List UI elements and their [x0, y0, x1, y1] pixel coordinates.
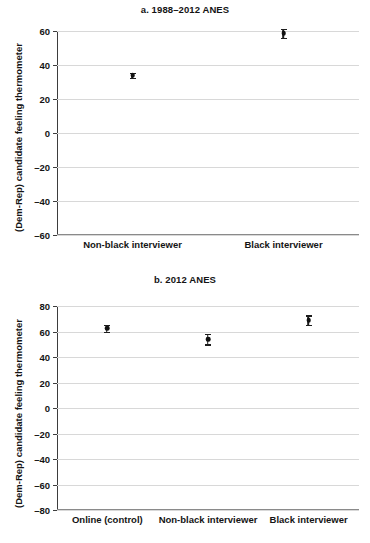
panel-a-y-tick-label: 60 [39, 26, 50, 37]
panel-a-y-tick-label: –20 [34, 162, 50, 173]
panel-b-gridline [57, 485, 359, 486]
panel-a-gridline [57, 167, 359, 168]
panel-b-error-cap-upper [306, 315, 312, 316]
panel-b-error-cap-upper [205, 334, 211, 335]
panel-b-gridline [57, 459, 359, 460]
panel-b-y-tick-label: 60 [39, 326, 50, 337]
panel-b-marker [105, 326, 110, 331]
panel-b-y-tick-mark [53, 510, 57, 511]
panel-b-y-tick-label: 80 [39, 301, 50, 312]
panel-b-y-tick-mark [53, 383, 57, 384]
panel-b-gridline [57, 306, 359, 307]
panel-b-gridline [57, 408, 359, 409]
panel-b-y-axis-title: (Dem-Rep) candidate feeling thermometer [13, 319, 24, 508]
panel-a-y-tick-mark [53, 201, 57, 202]
panel-b-x-category-label: Online (control) [72, 514, 143, 525]
panel-a-title: a. 1988–2012 ANES [0, 4, 370, 15]
panel-b-y-tick-label: 40 [39, 352, 50, 363]
panel-b-x-category-labels: Online (control)Non-black interviewerBla… [0, 514, 370, 528]
panel-b-y-tick-mark [53, 332, 57, 333]
panel-a-error-cap-lower [281, 38, 287, 39]
panel-b-y-tick-label: –40 [34, 454, 50, 465]
panel-a-marker [130, 73, 135, 78]
panel-a-x-category-label: Non-black interviewer [83, 239, 182, 250]
panel-a-plot-area: 6040200–20–40–60 [57, 31, 359, 235]
panel-a-gridline [57, 133, 359, 134]
panel-b-y-tick-mark [53, 434, 57, 435]
panel-b-y-tick-label: 20 [39, 377, 50, 388]
panel-a-gridline [57, 99, 359, 100]
panel-a-y-tick-label: 40 [39, 60, 50, 71]
panel-b-y-tick-mark [53, 485, 57, 486]
panel-b-y-tick-mark [53, 306, 57, 307]
panel-b-gridline [57, 383, 359, 384]
panel-b-gridline [57, 510, 359, 511]
panel-b-gridline [57, 434, 359, 435]
panel-a-gridline [57, 31, 359, 32]
panel-b-gridline [57, 332, 359, 333]
panel-a-gridline [57, 65, 359, 66]
panel-b-error-cap-lower [104, 332, 110, 333]
panel-b-gridline [57, 357, 359, 358]
panel-b-marker [306, 318, 311, 323]
panel-a-y-tick-label: 0 [45, 128, 50, 139]
panel-b-title: b. 2012 ANES [0, 274, 370, 285]
panel-a-y-tick-mark [53, 65, 57, 66]
panel-a-y-tick-label: 20 [39, 94, 50, 105]
panel-b-y-tick-mark [53, 459, 57, 460]
panel-b-error-cap-lower [205, 344, 211, 345]
panel-b-y-tick-mark [53, 408, 57, 409]
panel-b-y-tick-mark [53, 357, 57, 358]
chart-panel-a: a. 1988–2012 ANES (Dem-Rep) candidate fe… [0, 0, 370, 272]
panel-b-x-category-label: Black interviewer [270, 514, 348, 525]
figure-container: a. 1988–2012 ANES (Dem-Rep) candidate fe… [0, 0, 370, 543]
panel-b-marker [206, 337, 211, 342]
panel-a-marker [281, 31, 286, 36]
panel-a-gridline [57, 201, 359, 202]
panel-a-y-tick-mark [53, 235, 57, 236]
panel-a-y-tick-mark [53, 167, 57, 168]
panel-a-y-tick-mark [53, 99, 57, 100]
chart-panel-b: b. 2012 ANES (Dem-Rep) candidate feeling… [0, 270, 370, 543]
panel-a-y-tick-mark [53, 31, 57, 32]
panel-b-plot-area: 806040200–20–40–60–80 [57, 306, 359, 510]
panel-b-y-tick-label: 0 [45, 403, 50, 414]
panel-a-y-tick-mark [53, 133, 57, 134]
panel-a-y-tick-label: –40 [34, 196, 50, 207]
panel-a-y-axis-title: (Dem-Rep) candidate feeling thermometer [13, 43, 24, 232]
panel-a-x-category-labels: Non-black interviewerBlack interviewer [0, 239, 370, 253]
panel-b-error-cap-lower [306, 325, 312, 326]
panel-b-y-tick-label: –20 [34, 428, 50, 439]
panel-a-x-category-label: Black interviewer [244, 239, 322, 250]
panel-b-x-category-label: Non-black interviewer [159, 514, 258, 525]
panel-b-y-tick-label: –60 [34, 479, 50, 490]
panel-a-error-cap-lower [130, 78, 136, 79]
panel-a-gridline [57, 235, 359, 236]
